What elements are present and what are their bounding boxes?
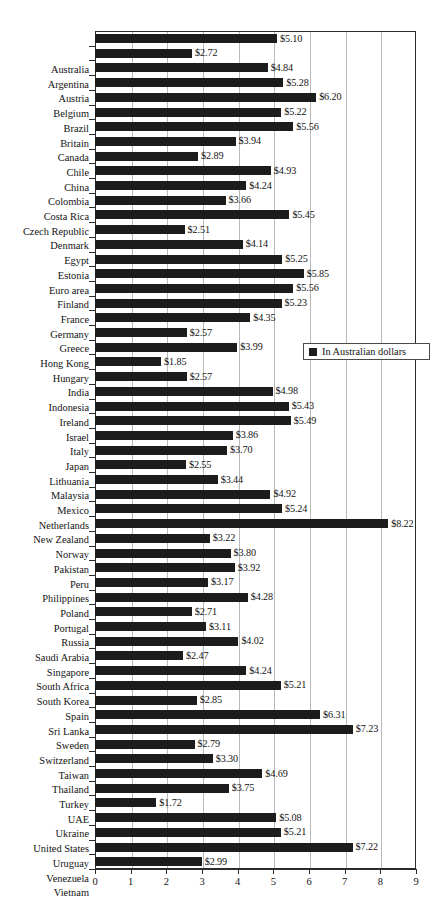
x-axis-tick [238,869,239,874]
category-label: Norway [0,547,89,563]
bar [95,828,281,837]
bar-row: $3.44 [95,472,416,488]
y-axis-tick [89,604,95,605]
y-axis-tick [89,296,95,297]
category-label: Thailand [0,782,89,798]
bar-row: $5.08 [95,810,416,826]
y-axis-tick [89,178,95,179]
y-axis-tick [89,90,95,91]
bar-value-label: $1.85 [164,354,186,370]
bar [95,402,289,411]
bar-row: $5.28 [95,75,416,91]
bar [95,137,236,146]
bar [95,108,281,117]
bar-value-label: $2.72 [195,45,217,61]
y-axis-tick [89,457,95,458]
category-label: South Korea [0,694,89,710]
bar-value-label: $3.22 [213,530,235,546]
y-axis-tick [89,472,95,473]
bar [95,725,353,734]
x-axis-tick [380,869,381,874]
bar-value-label: $4.24 [249,663,271,679]
bar [95,563,235,572]
bar [95,328,187,337]
bar-value-label: $2.57 [190,325,212,341]
bar-chart: AustraliaArgentinaAustriaBelgiumBrazilBr… [0,0,438,898]
bar-value-label: $7.22 [356,839,378,855]
bar [95,696,197,705]
bar [95,210,289,219]
category-label: India [0,385,89,401]
y-axis-tick [89,354,95,355]
bar [95,240,243,249]
x-axis-tick-label: 3 [192,875,212,888]
category-label: China [0,180,89,196]
bar-row: $3.86 [95,428,416,444]
category-label: Indonesia [0,400,89,416]
bar-value-label: $5.49 [294,413,316,429]
bar [95,740,195,749]
bar-row: $4.14 [95,237,416,253]
bar-value-label: $5.22 [284,104,306,120]
x-axis-tick [166,869,167,874]
bar [95,666,246,675]
bar-value-label: $5.45 [292,207,314,223]
bar [95,843,353,852]
bar [95,637,238,646]
category-label: Denmark [0,238,89,254]
y-axis-tick [89,810,95,811]
bar-value-label: $3.75 [232,780,254,796]
bar-value-label: $2.85 [200,692,222,708]
bar-row: $4.98 [95,384,416,400]
bar-value-label: $8.22 [391,516,413,532]
bar-value-label: $3.11 [209,619,231,635]
bar-value-label: $3.99 [240,339,262,355]
category-label: Argentina [0,77,89,93]
y-axis-tick [89,487,95,488]
bar-row: $2.89 [95,149,416,165]
y-axis-tick [89,501,95,502]
x-axis-tick-label: 5 [263,875,283,888]
y-axis-tick [89,648,95,649]
bar [95,416,291,425]
bar-row: $2.85 [95,693,416,709]
category-label: Portugal [0,621,89,637]
y-axis-tick [89,134,95,135]
category-label: Vietnam [0,885,89,898]
y-axis-tick [89,105,95,106]
category-label: Ireland [0,415,89,431]
category-label: Germany [0,327,89,343]
category-label: Saudi Arabia [0,650,89,666]
bar [95,34,277,43]
bar-value-label: $3.17 [211,574,233,590]
y-axis-tick [89,252,95,253]
bar-value-label: $2.55 [189,457,211,473]
category-label: Brazil [0,121,89,137]
y-axis-tick [89,399,95,400]
bar-value-label: $5.56 [296,280,318,296]
legend-label: In Australian dollars [322,346,406,357]
bar-value-label: $2.47 [186,648,208,664]
category-label: Colombia [0,194,89,210]
bar [95,387,273,396]
y-axis-tick [89,825,95,826]
y-axis-tick [89,546,95,547]
bar-row: $3.75 [95,781,416,797]
bar-value-label: $3.92 [238,560,260,576]
y-axis-tick [89,46,95,47]
y-axis-tick [89,237,95,238]
category-label: South Africa [0,679,89,695]
category-label: Peru [0,577,89,593]
bar-row: $4.24 [95,178,416,194]
bar [95,299,282,308]
y-axis-tick [89,781,95,782]
bar-row: $3.94 [95,134,416,150]
bar [95,798,156,807]
y-axis-tick [89,281,95,282]
bar [95,519,388,528]
bar [95,593,248,602]
y-axis-tick [89,678,95,679]
bar [95,549,231,558]
bar-row: $8.22 [95,516,416,532]
x-axis-tick-label: 4 [228,875,248,888]
